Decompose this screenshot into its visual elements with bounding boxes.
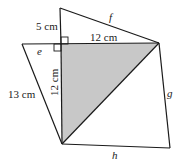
side-h [62,144,170,148]
label-h: h [112,149,118,161]
label-e: e [37,45,42,57]
label-13cm: 13 cm [8,88,36,100]
label-12cm-horizontal: 12 cm [90,31,118,43]
label-g: g [167,87,173,99]
label-12cm-vertical: 12 cm [48,68,60,96]
label-5cm: 5 cm [36,20,58,32]
geometry-diagram: 5 cm 12 cm 12 cm 13 cm e f g h [0,0,181,164]
label-f: f [109,11,114,23]
right-angle-marker-left [54,44,61,51]
right-angle-marker-top [61,37,68,44]
